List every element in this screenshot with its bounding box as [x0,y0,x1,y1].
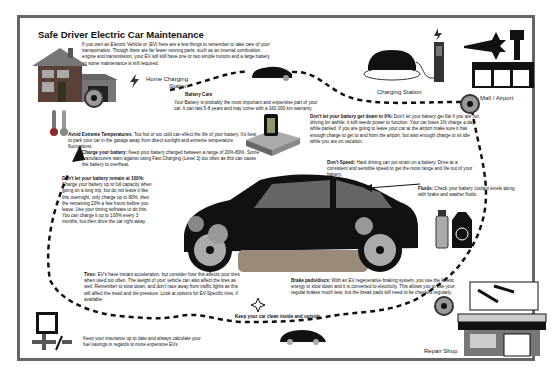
tip-brakes: Brake pads/discs: With an EV regenerativ… [291,278,456,297]
battery-care-heading: Battery Care [185,92,212,98]
wheel-marker-icon [434,296,454,316]
tip-temperatures: Avoid Extreme Temperatures: Too hot or t… [68,132,258,151]
tip-clean: Keep your car clean inside and outside. [235,314,322,320]
repair-shop-icon [458,278,548,368]
tip-not-0: Don't let your battery get down to 0%: D… [310,114,480,145]
thermometer-icon [50,110,70,138]
wheel-marker-icon [84,88,104,108]
charging-station-icon [362,24,452,84]
wheel-marker-icon [460,94,480,114]
label-charging-station: Charging Station [377,89,422,95]
label-mall-airport: Mall / Airport [480,95,513,101]
house-icon [30,44,130,104]
small-car-icon [278,326,328,346]
car-icon [250,64,294,82]
calculator-icon [32,312,72,362]
label-repair-shop: Repair Shop [424,348,457,354]
sparkle-icon [251,298,265,312]
tip-not-100: Don't let your battery remain at 100%: C… [62,176,154,226]
label-home: Home Charging Station [128,76,188,90]
tip-tires: Tires: EV's have instant acceleration, b… [84,272,244,303]
tip-fluids: Fluids: Check your battery coolant level… [418,186,518,198]
fluid-bottles-icon [434,208,474,250]
battery-care-text: Your Battery is probably the most import… [174,100,324,112]
pointer-arrow-icon [362,176,422,196]
airport-icon [462,22,542,92]
tip-insurance: Keep your insurance up to date and alway… [83,336,203,348]
tip-charge: Charge your battery: Keep your battery c… [82,150,262,169]
